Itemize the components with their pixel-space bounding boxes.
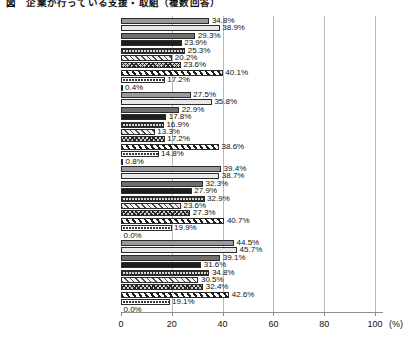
bar-row: 40.7% [121, 218, 375, 224]
bar[interactable] [121, 18, 209, 24]
bar-row: 38.7% [121, 173, 375, 179]
bar-row: 34.8% [121, 18, 375, 24]
bar[interactable] [121, 166, 221, 172]
bar-row: 22.9% [121, 107, 375, 113]
x-tick-label-80: 80 [319, 319, 329, 329]
bar[interactable] [121, 218, 224, 224]
bar-row: 0.0% [121, 307, 375, 313]
bar-row: 0.8% [121, 159, 375, 165]
bar-value-label: 27.5% [193, 90, 216, 99]
bar-row: 0.4% [121, 85, 375, 91]
bar[interactable] [121, 277, 198, 283]
bar-value-label: 38.6% [222, 142, 245, 151]
bar-group: 全体(n=1081)34.8%38.9%29.3%23.9%25.3%20.2%… [121, 18, 375, 92]
bar-row: 40.1% [121, 70, 375, 76]
bar-row: 23.6% [121, 203, 375, 209]
bar-value-label: 17.2% [167, 134, 190, 143]
bar-row: 38.6% [121, 144, 375, 150]
x-tick-label-100: 100 [367, 319, 382, 329]
bar-value-label: 40.1% [225, 68, 248, 77]
bar-value-label: 40.7% [227, 216, 250, 225]
bar-row: 14.8% [121, 151, 375, 157]
bar-value-label: 42.6% [232, 290, 255, 299]
bar-value-label: 19.1% [172, 297, 195, 306]
bar-row: 45.7% [121, 247, 375, 253]
x-tick-label-20: 20 [167, 319, 177, 329]
gridline-100 [375, 16, 376, 312]
bar-group: 100〜1000人未満(n=297)39.4%38.7%32.3%27.9%32… [121, 166, 375, 240]
bar-value-label: 32.4% [206, 282, 229, 291]
bar[interactable] [121, 284, 203, 290]
bar-row: 38.9% [121, 25, 375, 31]
bar[interactable] [121, 188, 192, 194]
bar-row: 17.2% [121, 136, 375, 142]
bar-row: 34.8% [121, 270, 375, 276]
bar-row: 25.3% [121, 48, 375, 54]
bar-value-label: 0.0% [124, 305, 142, 314]
bar-row: 32.9% [121, 196, 375, 202]
bar-value-label: 27.3% [193, 208, 216, 217]
bar-value-label: 38.9% [222, 23, 245, 32]
bar[interactable] [121, 270, 209, 276]
x-axis-unit-label: (%) [389, 319, 403, 329]
bar-row: 23.9% [121, 40, 375, 46]
chart-title: 図 企業が行っている支援・取組（複数回答） [6, 0, 220, 9]
bar-row: 17.2% [121, 77, 375, 83]
bar-row: 17.8% [121, 114, 375, 120]
bar-row: 27.5% [121, 92, 375, 98]
bar[interactable] [121, 55, 172, 61]
bar-row: 27.9% [121, 188, 375, 194]
bar-row: 35.8% [121, 99, 375, 105]
bar-row: 30.5% [121, 277, 375, 283]
x-tick-label-60: 60 [268, 319, 278, 329]
plot-area: 020406080100 (%) 全体(n=1081)34.8%38.9%29.… [121, 16, 375, 312]
bar-row: 39.4% [121, 166, 375, 172]
x-tick-label-40: 40 [218, 319, 228, 329]
bar-group: 100人未満(n=528)27.5%35.8%22.9%17.8%16.9%13… [121, 92, 375, 166]
bar-value-label: 35.8% [214, 97, 237, 106]
bar-value-label: 19.9% [174, 223, 197, 232]
bar[interactable] [121, 240, 234, 246]
bar-row: 19.1% [121, 299, 375, 305]
bar-row: 20.2% [121, 55, 375, 61]
bar-row: 13.3% [121, 129, 375, 135]
bar-row: 31.6% [121, 262, 375, 268]
bar-value-label: 17.2% [167, 75, 190, 84]
bar-value-label: 0.4% [125, 83, 143, 92]
bar[interactable] [121, 114, 166, 120]
bar[interactable] [121, 262, 201, 268]
tick-100 [375, 312, 376, 316]
bar[interactable] [121, 247, 237, 253]
bar[interactable] [121, 92, 191, 98]
bar[interactable] [121, 181, 203, 187]
bar-value-label: 0.0% [124, 231, 142, 240]
chart-container: 図 企業が行っている支援・取組（複数回答） 020406080100 (%) 全… [0, 0, 414, 346]
bar-row: 29.3% [121, 33, 375, 39]
bar[interactable] [121, 136, 165, 142]
bar-row: 32.3% [121, 181, 375, 187]
bar[interactable] [121, 40, 182, 46]
bar-value-label: 14.8% [161, 149, 184, 158]
bar[interactable] [121, 85, 123, 91]
bar-value-label: 32.9% [207, 194, 230, 203]
bar-row: 39.1% [121, 255, 375, 261]
bar[interactable] [121, 129, 155, 135]
x-tick-label-0: 0 [118, 319, 123, 329]
bar[interactable] [121, 210, 190, 216]
bar[interactable] [121, 159, 123, 165]
bar-row: 42.6% [121, 292, 375, 298]
bar-value-label: 23.6% [183, 60, 206, 69]
bar[interactable] [121, 203, 181, 209]
bar-row: 19.9% [121, 225, 375, 231]
bar-group: 1000人以上(n=256)44.5%45.7%39.1%31.6%34.8%3… [121, 240, 375, 314]
bar[interactable] [121, 62, 181, 68]
bar-value-label: 0.8% [126, 157, 144, 166]
